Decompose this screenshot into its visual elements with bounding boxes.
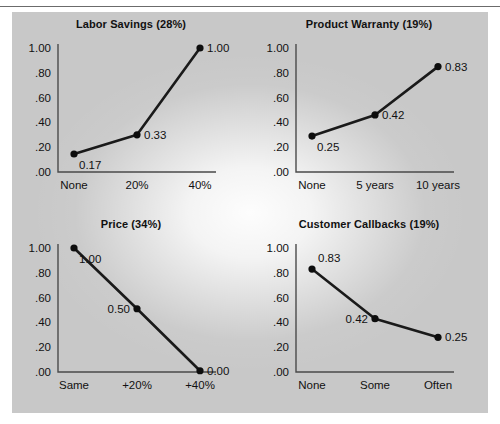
- y-axis-tick-label: .60: [273, 292, 289, 304]
- chart-panel-customer-callbacks: Customer Callbacks (19%) .00.20.40.60.80…: [250, 212, 488, 412]
- y-axis-tick-label: 1.00: [29, 42, 51, 54]
- x-axis-tick-label: None: [298, 179, 326, 191]
- y-axis-tick-label: .20: [273, 341, 289, 353]
- x-axis-tick-label: 20%: [125, 179, 148, 191]
- y-axis-tick-label: .60: [273, 92, 289, 104]
- data-point-marker: [434, 63, 441, 70]
- data-point-label: 0.17: [79, 159, 101, 171]
- data-point-marker: [70, 244, 77, 251]
- y-axis-tick-label: .80: [35, 267, 51, 279]
- y-axis-tick-label: .80: [273, 267, 289, 279]
- y-axis-tick-label: 1.00: [267, 42, 289, 54]
- y-axis-tick-label: .40: [35, 116, 51, 128]
- data-point-label: 0.33: [144, 129, 166, 141]
- chart-plot-area: .00.20.40.60.801.00None20%40%0.170.331.0…: [12, 12, 250, 212]
- y-axis-tick-label: 1.00: [29, 242, 51, 254]
- data-point-label: 0.25: [445, 331, 467, 343]
- series-line: [312, 67, 438, 136]
- top-divider-rule: [0, 6, 500, 7]
- y-axis-tick-label: .00: [35, 366, 51, 378]
- data-point-marker: [196, 44, 203, 51]
- data-point-label: 0.83: [318, 252, 340, 264]
- y-axis-tick-label: .20: [35, 341, 51, 353]
- x-axis-tick-label: None: [60, 179, 88, 191]
- data-point-label: 0.50: [108, 303, 130, 315]
- data-point-marker: [70, 150, 77, 157]
- chart-plot-area: .00.20.40.60.801.00None5 years10 years0.…: [250, 12, 488, 212]
- x-axis-tick-label: 5 years: [356, 179, 394, 191]
- y-axis-tick-label: 1.00: [267, 242, 289, 254]
- data-point-marker: [308, 265, 315, 272]
- x-axis-tick-label: Some: [360, 379, 390, 391]
- chart-panel-price: Price (34%) .00.20.40.60.801.00Same+20%+…: [12, 212, 250, 412]
- y-axis-tick-label: .20: [273, 141, 289, 153]
- x-axis-tick-label: Often: [424, 379, 452, 391]
- y-axis-tick-label: .40: [273, 116, 289, 128]
- chart-plot-area: .00.20.40.60.801.00NoneSomeOften0.830.42…: [250, 212, 488, 412]
- data-point-marker: [133, 305, 140, 312]
- chart-plot-area: .00.20.40.60.801.00Same+20%+40%1.000.500…: [12, 212, 250, 412]
- data-point-marker: [371, 111, 378, 118]
- data-point-marker: [434, 334, 441, 341]
- data-point-marker: [371, 315, 378, 322]
- figure-panel: Labor Savings (28%) .00.20.40.60.801.00N…: [12, 12, 488, 413]
- data-point-marker: [133, 131, 140, 138]
- y-axis-tick-label: .80: [273, 67, 289, 79]
- x-axis-tick-label: +20%: [122, 379, 152, 391]
- y-axis-tick-label: .00: [273, 366, 289, 378]
- data-point-label: 1.00: [79, 253, 101, 265]
- y-axis-tick-label: .80: [35, 67, 51, 79]
- chart-panel-labor-savings: Labor Savings (28%) .00.20.40.60.801.00N…: [12, 12, 250, 212]
- data-point-label: 0.83: [445, 61, 467, 73]
- y-axis-tick-label: .60: [35, 292, 51, 304]
- y-axis-tick-label: .40: [35, 316, 51, 328]
- y-axis-tick-label: .00: [273, 166, 289, 178]
- data-point-marker: [308, 132, 315, 139]
- data-point-marker: [196, 367, 203, 374]
- y-axis-tick-label: .20: [35, 141, 51, 153]
- y-axis-tick-label: .00: [35, 166, 51, 178]
- x-axis-tick-label: +40%: [185, 379, 215, 391]
- data-point-label: 0.42: [346, 313, 368, 325]
- series-line: [312, 269, 438, 337]
- x-axis-tick-label: 10 years: [416, 179, 460, 191]
- data-point-label: 0.42: [382, 109, 404, 121]
- x-axis-tick-label: None: [298, 379, 326, 391]
- data-point-label: 0.00: [207, 365, 229, 377]
- data-point-label: 1.00: [207, 42, 229, 54]
- y-axis-tick-label: .60: [35, 92, 51, 104]
- data-point-label: 0.25: [317, 141, 339, 153]
- x-axis-tick-label: 40%: [188, 179, 211, 191]
- x-axis-tick-label: Same: [59, 379, 89, 391]
- y-axis-tick-label: .40: [273, 316, 289, 328]
- chart-panel-product-warranty: Product Warranty (19%) .00.20.40.60.801.…: [250, 12, 488, 212]
